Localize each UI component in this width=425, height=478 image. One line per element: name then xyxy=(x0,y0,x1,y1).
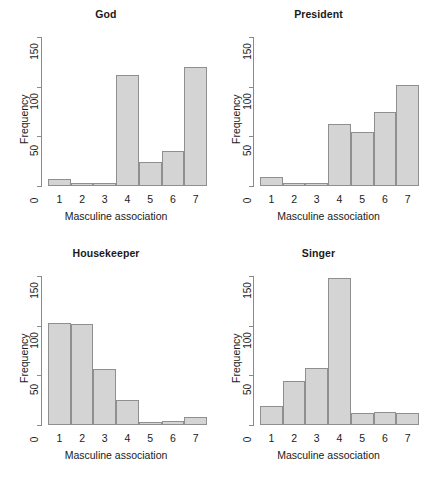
y-tick-label-singer-100: 100 xyxy=(242,326,253,356)
y-tick-label-president-50: 50 xyxy=(242,136,253,166)
bar-president-6 xyxy=(374,112,396,187)
x-tick-label-president-4: 4 xyxy=(337,193,343,205)
x-axis-label-singer: Masculine association xyxy=(232,449,425,461)
panel-housekeeper: Housekeeper050100150Frequency1234567Masc… xyxy=(0,239,212,478)
bar-god-4 xyxy=(116,75,139,186)
panel-god: God050100150Frequency1234567Masculine as… xyxy=(0,0,212,239)
bar-housekeeper-4 xyxy=(116,400,139,425)
panel-title-housekeeper: Housekeeper xyxy=(0,247,212,259)
bar-god-5 xyxy=(139,162,162,186)
x-tick-label-singer-6: 6 xyxy=(382,432,388,444)
bar-housekeeper-7 xyxy=(184,417,207,425)
x-axis-label-president: Masculine association xyxy=(232,210,425,222)
x-tick-label-god-4: 4 xyxy=(125,193,131,205)
bar-singer-3 xyxy=(305,368,328,425)
x-tick-label-housekeeper-4: 4 xyxy=(125,432,131,444)
bar-president-4 xyxy=(328,124,351,186)
bar-singer-4 xyxy=(328,278,351,425)
y-tick-label-god-100: 100 xyxy=(29,87,40,117)
bar-president-1 xyxy=(260,177,283,186)
x-tick-label-singer-5: 5 xyxy=(359,432,365,444)
x-tick-label-president-2: 2 xyxy=(291,193,297,205)
bar-singer-6 xyxy=(374,412,396,425)
bar-god-1 xyxy=(48,179,71,186)
bar-god-2 xyxy=(71,183,93,186)
bar-housekeeper-5 xyxy=(139,422,162,425)
figure-panel-grid: God050100150Frequency1234567Masculine as… xyxy=(0,0,425,478)
y-axis-line-god xyxy=(41,37,42,187)
plot-area-singer xyxy=(260,276,419,425)
bar-president-3 xyxy=(305,183,328,186)
x-tick-label-god-3: 3 xyxy=(102,193,108,205)
y-axis-line-housekeeper xyxy=(41,276,42,426)
x-tick-label-god-2: 2 xyxy=(79,193,85,205)
x-tick-label-housekeeper-7: 7 xyxy=(193,432,199,444)
x-tick-label-president-1: 1 xyxy=(268,193,274,205)
x-tick-label-god-1: 1 xyxy=(56,193,62,205)
x-tick-label-president-6: 6 xyxy=(382,193,388,205)
plot-area-god xyxy=(48,37,207,186)
y-tick-label-singer-50: 50 xyxy=(242,375,253,405)
x-tick-label-god-7: 7 xyxy=(193,193,199,205)
x-tick-label-housekeeper-5: 5 xyxy=(147,432,153,444)
plot-area-president xyxy=(260,37,419,186)
x-tick-label-singer-2: 2 xyxy=(291,432,297,444)
bar-housekeeper-6 xyxy=(162,421,184,425)
x-tick-label-housekeeper-2: 2 xyxy=(79,432,85,444)
y-tick-label-singer-150: 150 xyxy=(242,276,253,306)
y-tick-label-housekeeper-150: 150 xyxy=(29,276,40,306)
bar-housekeeper-2 xyxy=(71,324,93,425)
x-tick-label-president-3: 3 xyxy=(314,193,320,205)
x-tick-label-housekeeper-1: 1 xyxy=(56,432,62,444)
y-tick-label-god-150: 150 xyxy=(29,37,40,67)
panel-president: President050100150Frequency1234567Mascul… xyxy=(212,0,425,239)
x-tick-label-singer-1: 1 xyxy=(268,432,274,444)
y-axis-label-president: Frequency xyxy=(230,94,242,144)
x-axis-label-god: Masculine association xyxy=(20,210,212,222)
bar-president-7 xyxy=(396,85,419,186)
x-axis-label-housekeeper: Masculine association xyxy=(20,449,212,461)
x-tick-label-singer-7: 7 xyxy=(405,432,411,444)
plot-area-housekeeper xyxy=(48,276,207,425)
y-axis-label-god: Frequency xyxy=(18,94,30,144)
bar-singer-2 xyxy=(283,381,305,425)
x-tick-label-god-5: 5 xyxy=(147,193,153,205)
x-tick-label-housekeeper-3: 3 xyxy=(102,432,108,444)
bar-singer-5 xyxy=(351,413,374,425)
x-tick-label-singer-3: 3 xyxy=(314,432,320,444)
panel-singer: Singer050100150Frequency1234567Masculine… xyxy=(212,239,425,478)
y-tick-label-housekeeper-50: 50 xyxy=(29,375,40,405)
bar-god-6 xyxy=(162,151,184,186)
y-axis-label-singer: Frequency xyxy=(230,333,242,383)
x-tick-label-singer-4: 4 xyxy=(337,432,343,444)
x-tick-label-god-6: 6 xyxy=(170,193,176,205)
panel-title-god: God xyxy=(0,8,212,20)
bar-housekeeper-1 xyxy=(48,323,71,425)
y-axis-line-singer xyxy=(253,276,254,426)
bar-singer-1 xyxy=(260,406,283,425)
y-tick-label-housekeeper-100: 100 xyxy=(29,326,40,356)
bar-singer-7 xyxy=(396,413,419,425)
x-tick-label-president-5: 5 xyxy=(359,193,365,205)
bar-god-3 xyxy=(93,183,116,186)
y-axis-line-president xyxy=(253,37,254,187)
panel-title-singer: Singer xyxy=(212,247,425,259)
y-tick-label-god-50: 50 xyxy=(29,136,40,166)
y-tick-label-president-100: 100 xyxy=(242,87,253,117)
panel-title-president: President xyxy=(212,8,425,20)
bar-president-2 xyxy=(283,183,305,186)
y-axis-label-housekeeper: Frequency xyxy=(18,333,30,383)
bar-god-7 xyxy=(184,67,207,186)
bar-president-5 xyxy=(351,132,374,186)
x-tick-label-housekeeper-6: 6 xyxy=(170,432,176,444)
x-tick-label-president-7: 7 xyxy=(405,193,411,205)
y-tick-label-president-150: 150 xyxy=(242,37,253,67)
bar-housekeeper-3 xyxy=(93,369,116,425)
